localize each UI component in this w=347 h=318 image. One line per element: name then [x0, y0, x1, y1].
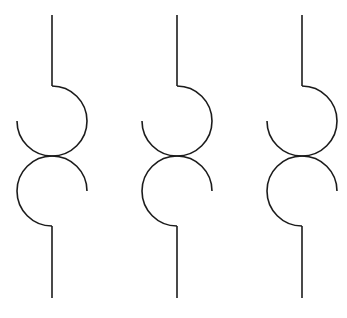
- diagram-svg: [0, 0, 347, 318]
- upper-coil-arc: [17, 86, 87, 156]
- lower-coil-arc: [17, 156, 87, 226]
- symbol-2: [142, 15, 212, 298]
- upper-coil-arc: [267, 86, 337, 156]
- lower-coil-arc: [267, 156, 337, 226]
- diagram-canvas: [0, 0, 347, 318]
- symbol-1: [17, 15, 87, 298]
- lower-coil-arc: [142, 156, 212, 226]
- upper-coil-arc: [142, 86, 212, 156]
- symbol-3: [267, 15, 337, 298]
